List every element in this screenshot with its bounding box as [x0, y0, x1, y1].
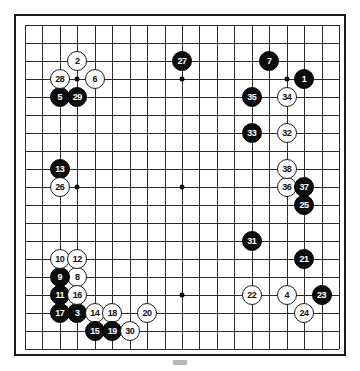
stone-move-32[interactable]: 32 — [277, 123, 297, 143]
stone-move-13[interactable]: 13 — [50, 159, 70, 179]
stone-move-33[interactable]: 33 — [242, 123, 262, 143]
stone-move-25[interactable]: 25 — [294, 195, 314, 215]
stone-move-29[interactable]: 29 — [67, 87, 87, 107]
stone-move-number: 20 — [143, 309, 152, 318]
stone-move-2[interactable]: 2 — [67, 51, 87, 71]
stone-move-number: 6 — [93, 75, 98, 84]
stone-move-8[interactable]: 8 — [67, 267, 87, 287]
stone-move-number: 30 — [125, 327, 134, 336]
stone-move-24[interactable]: 24 — [294, 303, 314, 323]
go-board[interactable]: 1234567891011121314151617181920212223242… — [14, 14, 346, 356]
stone-move-number: 14 — [90, 309, 99, 318]
caption-mark — [173, 360, 187, 365]
stone-move-number: 35 — [247, 93, 256, 102]
stone-move-number: 9 — [58, 273, 63, 282]
stone-move-number: 38 — [282, 165, 291, 174]
stone-move-number: 15 — [90, 327, 99, 336]
grid-line-horizontal — [25, 331, 339, 332]
stone-move-number: 4 — [284, 291, 289, 300]
grid-line-horizontal — [25, 223, 339, 224]
star-point — [180, 185, 185, 190]
stone-move-number: 28 — [55, 75, 64, 84]
stone-move-16[interactable]: 16 — [67, 285, 87, 305]
stone-move-35[interactable]: 35 — [242, 87, 262, 107]
grid-line-vertical — [269, 25, 270, 349]
stone-move-6[interactable]: 6 — [85, 69, 105, 89]
stone-move-number: 5 — [58, 93, 63, 102]
stone-move-12[interactable]: 12 — [67, 249, 87, 269]
stone-move-number: 31 — [247, 237, 256, 246]
stone-move-number: 18 — [108, 309, 117, 318]
grid-line-horizontal — [25, 241, 339, 242]
grid-line-vertical — [234, 25, 235, 349]
star-point — [75, 185, 80, 190]
grid-line-horizontal — [25, 205, 339, 206]
stone-move-number: 29 — [73, 93, 82, 102]
stone-move-7[interactable]: 7 — [259, 51, 279, 71]
grid-line-vertical — [339, 25, 340, 349]
stone-move-number: 25 — [300, 201, 309, 210]
stone-move-21[interactable]: 21 — [294, 249, 314, 269]
stone-move-number: 13 — [55, 165, 64, 174]
stone-move-number: 21 — [300, 255, 309, 264]
stone-move-1[interactable]: 1 — [294, 69, 314, 89]
stone-move-number: 12 — [73, 255, 82, 264]
stone-move-number: 10 — [55, 255, 64, 264]
stone-move-number: 34 — [282, 93, 291, 102]
stone-move-number: 33 — [247, 129, 256, 138]
stone-move-28[interactable]: 28 — [50, 69, 70, 89]
stone-move-number: 32 — [282, 129, 291, 138]
stone-move-number: 36 — [282, 183, 291, 192]
stone-move-22[interactable]: 22 — [242, 285, 262, 305]
grid-line-horizontal — [25, 349, 339, 350]
stone-move-number: 17 — [55, 309, 64, 318]
stone-move-number: 19 — [108, 327, 117, 336]
stone-move-38[interactable]: 38 — [277, 159, 297, 179]
stone-move-17[interactable]: 17 — [50, 303, 70, 323]
stone-move-number: 23 — [317, 291, 326, 300]
stone-move-number: 3 — [75, 309, 80, 318]
stone-move-number: 1 — [302, 75, 307, 84]
stone-move-4[interactable]: 4 — [277, 285, 297, 305]
go-diagram: 1234567891011121314151617181920212223242… — [0, 0, 360, 371]
stone-move-37[interactable]: 37 — [294, 177, 314, 197]
stone-move-18[interactable]: 18 — [102, 303, 122, 323]
grid-line-vertical — [217, 25, 218, 349]
stone-move-31[interactable]: 31 — [242, 231, 262, 251]
stone-move-number: 7 — [267, 57, 272, 66]
stone-move-20[interactable]: 20 — [137, 303, 157, 323]
star-point — [284, 77, 289, 82]
stone-move-number: 37 — [300, 183, 309, 192]
grid-line-vertical — [199, 25, 200, 349]
stone-move-number: 2 — [75, 57, 80, 66]
stone-move-number: 26 — [55, 183, 64, 192]
stone-move-9[interactable]: 9 — [50, 267, 70, 287]
diagram-caption — [0, 358, 360, 371]
stone-move-26[interactable]: 26 — [50, 177, 70, 197]
stone-move-number: 16 — [73, 291, 82, 300]
stone-move-number: 27 — [177, 57, 186, 66]
stone-move-number: 8 — [75, 273, 80, 282]
stone-move-number: 22 — [247, 291, 256, 300]
stone-move-27[interactable]: 27 — [172, 51, 192, 71]
stone-move-number: 24 — [300, 309, 309, 318]
stone-move-23[interactable]: 23 — [312, 285, 332, 305]
stone-move-30[interactable]: 30 — [120, 321, 140, 341]
stone-move-34[interactable]: 34 — [277, 87, 297, 107]
star-point — [180, 77, 185, 82]
star-point — [75, 77, 80, 82]
stone-move-number: 11 — [56, 291, 65, 300]
star-point — [180, 293, 185, 298]
